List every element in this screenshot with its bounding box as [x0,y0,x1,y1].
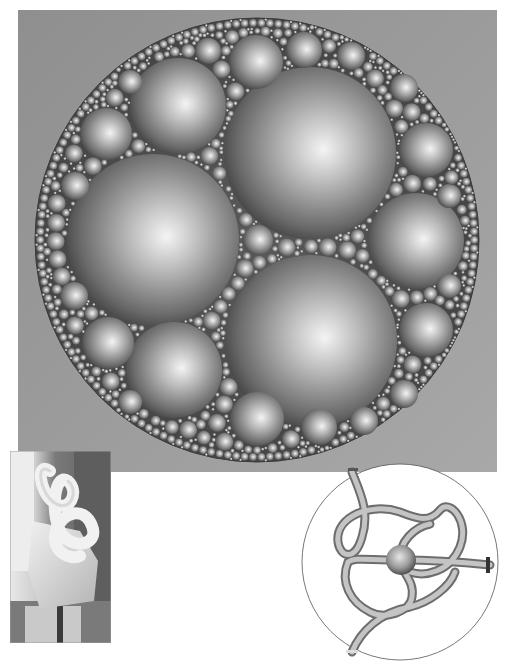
packing-bead [457,205,467,215]
packing-bead [394,369,404,379]
packing-bead [53,326,56,329]
packing-bead [288,424,291,427]
packing-bead [461,271,464,274]
packing-bead [390,118,393,121]
packing-bead [307,446,315,454]
packing-bead [159,40,167,48]
packing-bead [63,131,71,139]
packing-bead [371,401,374,404]
packing-bead [70,276,76,282]
packing-bead [69,310,75,316]
packing-bead [225,186,231,192]
packing-bead [249,19,257,27]
packing-bead [253,270,257,274]
packing-bead [393,308,397,312]
packing-bead [136,68,140,72]
packing-bead [283,66,286,69]
packing-bead [384,286,394,296]
packing-bead [119,155,123,159]
packing-bead [85,303,88,306]
packing-bead [355,249,369,263]
packing-bead [53,295,56,298]
packing-bead [70,271,73,274]
packing-bead [400,116,403,119]
packing-bead [172,442,175,445]
packing-bead [121,365,124,368]
packing-bead [37,219,45,227]
packing-bead [52,268,70,286]
packing-bead [212,166,226,180]
packing-bead [444,300,454,310]
packing-bead [84,100,87,103]
packing-bead [88,178,91,181]
packing-bead [221,142,224,145]
packing-bead [379,202,383,206]
packing-bead [35,234,38,237]
packing-bead [221,354,225,358]
packing-bead [369,52,377,60]
packing-bead [190,36,194,40]
packing-bead [40,194,48,202]
packing-bead [39,202,47,210]
packing-bead [423,365,427,369]
packing-bead [404,353,407,356]
packing-bead [75,164,83,172]
packing-bead [221,46,231,56]
packing-bead [450,312,456,318]
packing-bead [404,309,407,312]
packing-bead [198,326,201,329]
tube-end-bottom [346,650,358,653]
packing-bead [42,286,50,294]
packing-bead [116,67,121,72]
packing-bead [239,213,253,227]
packing-bead [409,291,423,305]
packing-bead [223,376,226,379]
packing-bead [37,253,45,261]
packing-bead [388,377,396,385]
packing-bead [228,75,231,78]
packing-bead [42,293,45,296]
packing-bead [338,233,342,237]
packing-bead [353,68,363,78]
packing-bead [123,62,131,70]
packing-bead [340,68,344,72]
packing-bead [274,452,282,460]
packing-bead [397,70,400,73]
packing-bead [98,388,106,396]
packing-bead [450,135,453,138]
packing-bead [136,412,139,415]
packing-bead [232,452,240,460]
packing-bead [397,407,400,410]
packing-bead [419,97,427,105]
packing-bead [180,446,183,449]
packing-bead [347,439,350,442]
packing-bead [398,167,408,177]
packing-bead [461,185,465,189]
packing-bead [425,369,433,377]
packing-bead [355,435,358,438]
packing-bead [317,63,321,67]
packing-bead [84,157,102,175]
packing-bead [215,433,233,451]
sculpture-photo [10,451,111,643]
packing-bead [225,122,228,125]
packing-bead [389,183,403,197]
packing-bead [92,90,100,98]
packing-bead [418,89,421,92]
packing-bead [409,122,413,126]
packing-bead [152,148,155,151]
packing-bead [109,85,113,89]
packing-bead [284,29,292,37]
packing-bead [50,276,53,279]
packing-bead [221,337,224,340]
packing-bead [400,72,403,75]
packing-bead [279,256,282,259]
packing-bead [257,19,265,27]
packing-bead [71,202,75,206]
packing-bead [239,248,243,252]
packing-bead [78,107,81,110]
packing-bead [96,377,100,381]
packing-bead [463,230,467,234]
packing-bead [220,320,226,326]
packing-bead [338,241,356,259]
